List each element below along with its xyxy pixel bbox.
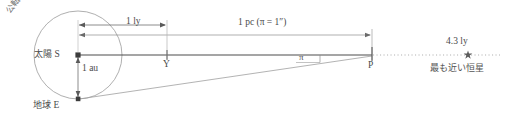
- sightline-earth-to-p: [79, 56, 372, 99]
- sun-point-marker: [75, 52, 80, 57]
- earth-label-jp: 地球: [33, 100, 51, 110]
- pc-arrowhead-right: [365, 33, 371, 38]
- earth-point-marker: [76, 97, 81, 102]
- parallax-angle-label: π: [299, 53, 304, 62]
- sun-label-jp: 太陽: [34, 49, 52, 59]
- au-arrowhead-bottom: [76, 91, 81, 97]
- nearest-star-label: 最も近い恒星: [430, 64, 484, 73]
- sun-label: 太陽 S: [34, 50, 60, 60]
- pc-arrowhead-left: [79, 33, 85, 38]
- ly-distance-label: 1 ly: [126, 17, 141, 27]
- pc-distance-label: 1 pc (π = 1″): [238, 18, 286, 28]
- au-distance-label: 1 au: [82, 64, 98, 74]
- ly-arrowhead-left: [79, 23, 85, 28]
- au-arrowhead-top: [76, 57, 81, 63]
- point-y-label: Y: [163, 60, 170, 70]
- earth-point-label: E: [53, 100, 59, 110]
- ly-arrowhead-right: [160, 23, 166, 28]
- diagram-canvas: 公転軌道 太陽 S 地球 E 1 au 1 ly 1 pc (π = 1″) Y…: [0, 0, 512, 120]
- earth-label: 地球 E: [33, 101, 59, 111]
- point-p-label: P: [368, 61, 373, 71]
- star-distance-label: 4.3 ly: [446, 37, 468, 47]
- sun-point-label: S: [54, 49, 59, 59]
